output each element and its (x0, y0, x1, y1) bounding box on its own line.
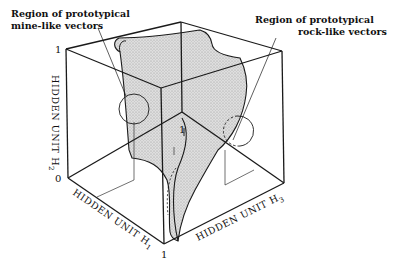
axis-h3-label: HIDDEN UNIT H3 (194, 190, 286, 245)
svg-text:HIDDEN UNIT H2: HIDDEN UNIT H2 (47, 75, 61, 171)
inner-tick-label: 1 (179, 124, 185, 135)
rock-annotation-line1: Region of prototypical (255, 14, 374, 25)
axis-h1-label: HIDDEN UNIT H1 (69, 187, 156, 253)
decision-surface (115, 30, 247, 241)
hidden-unit-space-diagram: 1 Region of prototypical mine-like vecto… (0, 0, 394, 271)
h1-max-tick: 1 (161, 249, 167, 260)
axis-h2-label: HIDDEN UNIT H2 (47, 75, 61, 171)
rock-annotation-line2: rock-like vectors (298, 26, 387, 37)
h2-max-tick: 1 (55, 44, 61, 55)
svg-text:HIDDEN UNIT H3: HIDDEN UNIT H3 (194, 190, 286, 245)
mine-annotation-line2: mine-like vectors (11, 20, 103, 31)
mine-annotation-line1: Region of prototypical (11, 8, 130, 19)
origin-tick: 0 (55, 173, 61, 184)
svg-text:HIDDEN UNIT H1: HIDDEN UNIT H1 (69, 187, 156, 253)
